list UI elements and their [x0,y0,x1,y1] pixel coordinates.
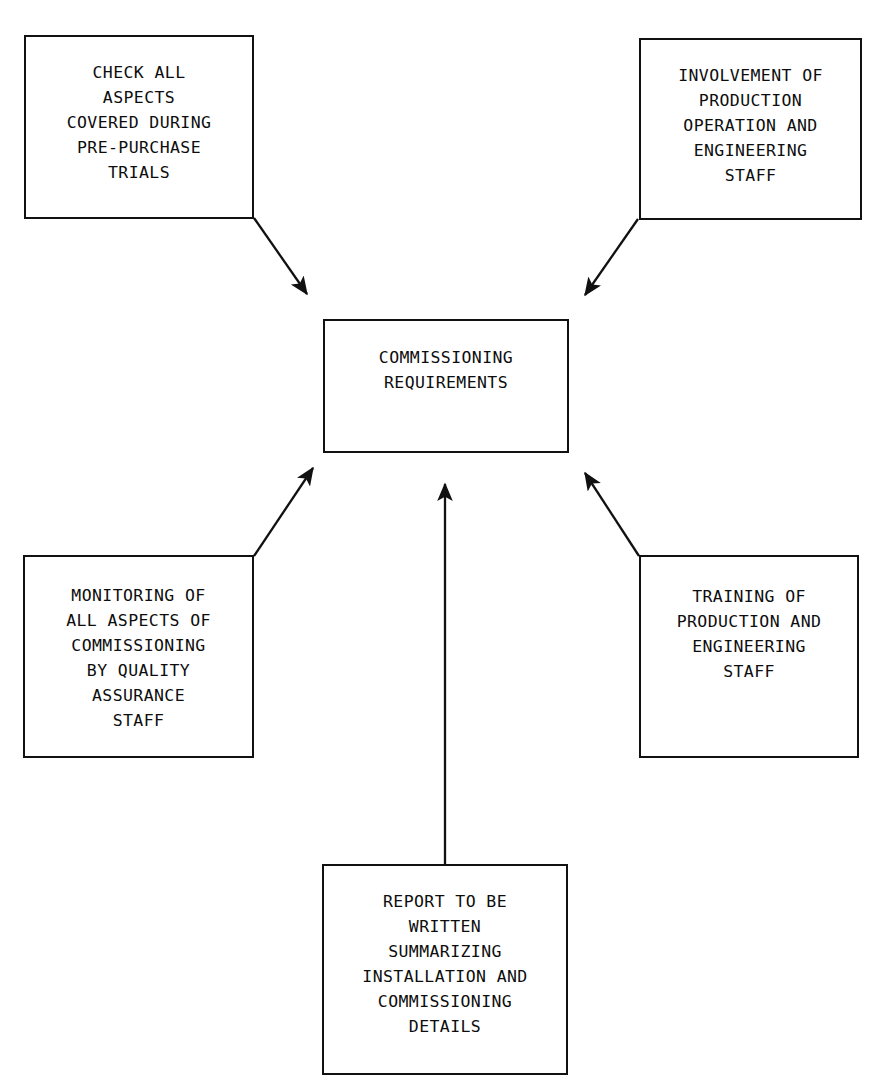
edge-training-of-production-to-center [585,473,639,556]
node-check-all-aspects-label: CHECK ALL ASPECTS COVERED DURING PRE-PUR… [67,37,212,185]
node-commissioning-requirements: COMMISSIONING REQUIREMENTS [323,319,569,453]
node-report-to-be-written-label: REPORT TO BE WRITTEN SUMMARIZING INSTALL… [362,866,527,1039]
node-check-all-aspects: CHECK ALL ASPECTS COVERED DURING PRE-PUR… [24,35,254,219]
edge-involvement-of-production-to-center [585,219,638,295]
node-training-of-production: TRAINING OF PRODUCTION AND ENGINEERING S… [639,555,859,758]
node-commissioning-requirements-label: COMMISSIONING REQUIREMENTS [379,321,513,395]
edge-check-all-aspects-to-center [254,218,307,294]
node-involvement-of-production-label: INVOLVEMENT OF PRODUCTION OPERATION AND … [678,40,823,188]
node-monitoring-quality-assurance: MONITORING OF ALL ASPECTS OF COMMISSIONI… [23,555,254,758]
edge-monitoring-quality-assurance-to-center [254,468,313,556]
node-monitoring-quality-assurance-label: MONITORING OF ALL ASPECTS OF COMMISSIONI… [66,557,211,733]
node-report-to-be-written: REPORT TO BE WRITTEN SUMMARIZING INSTALL… [322,864,568,1075]
node-training-of-production-label: TRAINING OF PRODUCTION AND ENGINEERING S… [677,557,822,684]
commissioning-requirements-diagram: CHECK ALL ASPECTS COVERED DURING PRE-PUR… [0,0,879,1092]
node-involvement-of-production: INVOLVEMENT OF PRODUCTION OPERATION AND … [639,38,862,220]
